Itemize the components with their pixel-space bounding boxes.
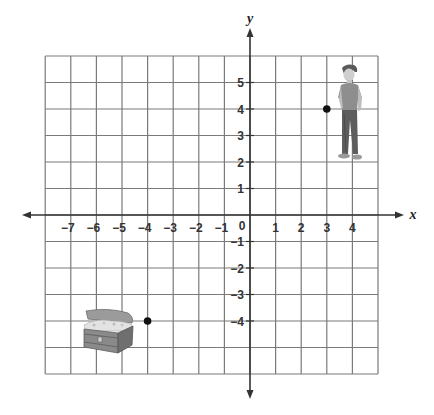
tick-labels: −7−6−5−4−3−2−11234054321−1−2−3−4 xyxy=(61,76,356,329)
y-tick-label: 4 xyxy=(237,103,244,117)
x-axis-label: x xyxy=(409,207,417,222)
x-axis-right-arrow-icon xyxy=(395,212,404,219)
y-tick-label: −1 xyxy=(230,235,244,249)
y-axis-label: y xyxy=(245,11,254,26)
point-boy xyxy=(323,105,331,113)
treasure-chest-icon xyxy=(84,309,133,353)
x-axis-left-arrow-icon xyxy=(22,212,31,219)
y-tick-label: −4 xyxy=(230,315,244,329)
x-tick-label: −1 xyxy=(215,221,229,235)
x-tick-label: −5 xyxy=(112,221,126,235)
axes: xy xyxy=(22,11,417,399)
y-tick-label: 2 xyxy=(237,156,244,170)
x-tick-label: −7 xyxy=(61,221,75,235)
boy-figure-icon xyxy=(338,64,362,159)
y-tick-label: 5 xyxy=(237,76,244,90)
x-tick-label: −2 xyxy=(189,221,203,235)
x-tick-label: −4 xyxy=(138,221,152,235)
x-tick-label: −3 xyxy=(163,221,177,235)
y-tick-label: 3 xyxy=(237,129,244,143)
y-tick-label: −2 xyxy=(230,262,244,276)
y-tick-label: 1 xyxy=(237,182,244,196)
x-tick-label: −6 xyxy=(87,221,101,235)
x-tick-label: 2 xyxy=(298,221,305,235)
coordinate-plane: xy −7−6−5−4−3−2−11234054321−1−2−3−4 xyxy=(0,0,434,415)
y-axis-down-arrow-icon xyxy=(247,390,254,399)
point-treasure-chest xyxy=(144,317,152,325)
origin-label: 0 xyxy=(239,219,246,233)
x-tick-label: 4 xyxy=(349,221,356,235)
x-tick-label: 1 xyxy=(272,221,279,235)
y-tick-label: −3 xyxy=(230,288,244,302)
y-axis-up-arrow-icon xyxy=(247,28,254,37)
x-tick-label: 3 xyxy=(323,221,330,235)
